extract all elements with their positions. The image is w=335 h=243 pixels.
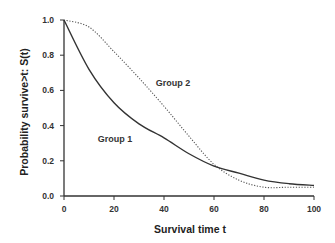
chart-svg: 0.0 0.2 0.4 0.6 0.8 1.0 0 20 40 60 80 10… <box>0 0 335 243</box>
y-tick-label: 0.2 <box>42 156 54 166</box>
group-1-label: Group 1 <box>98 134 133 144</box>
y-tick-label: 0.8 <box>42 50 54 60</box>
y-axis-title: Probability survive>t: S(t) <box>18 48 30 176</box>
x-tick-label: 20 <box>109 204 119 214</box>
survival-chart: 0.0 0.2 0.4 0.6 0.8 1.0 0 20 40 60 80 10… <box>0 0 335 243</box>
x-tick-label: 100 <box>307 204 321 214</box>
x-tick-label: 80 <box>259 204 269 214</box>
x-tick-label: 60 <box>209 204 219 214</box>
group-2-curve <box>64 20 314 188</box>
x-tick-label: 0 <box>62 204 67 214</box>
group-2-label: Group 2 <box>156 78 191 88</box>
x-axis-title: Survival time t <box>154 223 226 235</box>
x-tick-label: 40 <box>159 204 169 214</box>
y-tick-label: 0.4 <box>42 121 54 131</box>
y-tick-label: 0.6 <box>42 85 54 95</box>
group-1-curve <box>64 20 314 185</box>
y-tick-label: 1.0 <box>42 15 54 25</box>
y-tick-label: 0.0 <box>42 191 54 201</box>
